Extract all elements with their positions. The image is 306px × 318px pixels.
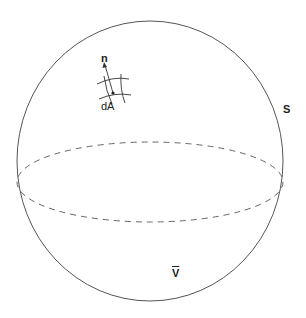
area-element-label: dA [101, 101, 114, 112]
surface-label: S [283, 104, 290, 115]
volume-label: V [172, 268, 179, 279]
diagram-canvas [0, 0, 306, 318]
equator-dashed-ellipse [17, 142, 283, 222]
normal-label: n [101, 53, 108, 64]
patch-point [111, 91, 114, 94]
sphere-outline [17, 21, 283, 301]
